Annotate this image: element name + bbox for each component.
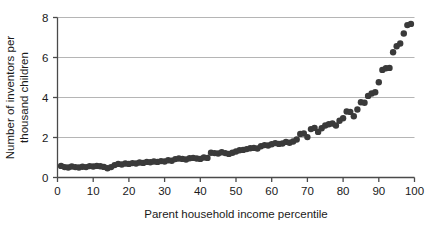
data-point [390,49,396,55]
y-tick-label: 8 [42,12,48,24]
data-point [408,21,414,27]
data-point [361,100,367,106]
data-point [372,89,378,95]
data-point [304,134,310,140]
y-axis-label-line: Number of inventors per [4,36,16,160]
inventors-vs-income-chart: 0102030405060708090100 02468 Parent hous… [0,0,431,233]
y-tick-label: 2 [42,132,48,144]
data-point [351,113,357,119]
data-point [204,155,210,161]
x-tick-label: 80 [337,185,350,197]
plot-background [0,0,431,233]
x-tick-label: 50 [230,185,243,197]
y-tick-label: 6 [42,52,48,64]
x-tick-label: 40 [194,185,207,197]
y-tick-label: 0 [42,172,48,184]
x-tick-label: 100 [405,185,424,197]
y-tick-label: 4 [42,92,49,104]
x-tick-label: 70 [301,185,314,197]
x-tick-label: 0 [54,185,60,197]
data-point [386,65,392,71]
x-tick-label: 90 [372,185,385,197]
x-tick-label: 60 [265,185,278,197]
data-point [397,40,403,46]
data-point [401,30,407,36]
data-point [376,79,382,85]
x-tick-label: 10 [87,185,100,197]
data-point [340,115,346,121]
y-axis-label: Number of inventors perthousand children [4,36,30,160]
x-axis-label: Parent household income percentile [144,208,327,220]
data-point [293,136,299,142]
chart-canvas: 0102030405060708090100 02468 Parent hous… [0,0,431,233]
x-tick-label: 20 [123,185,136,197]
y-axis-label-line: thousand children [18,52,30,143]
x-tick-label: 30 [158,185,171,197]
data-point [354,106,360,112]
